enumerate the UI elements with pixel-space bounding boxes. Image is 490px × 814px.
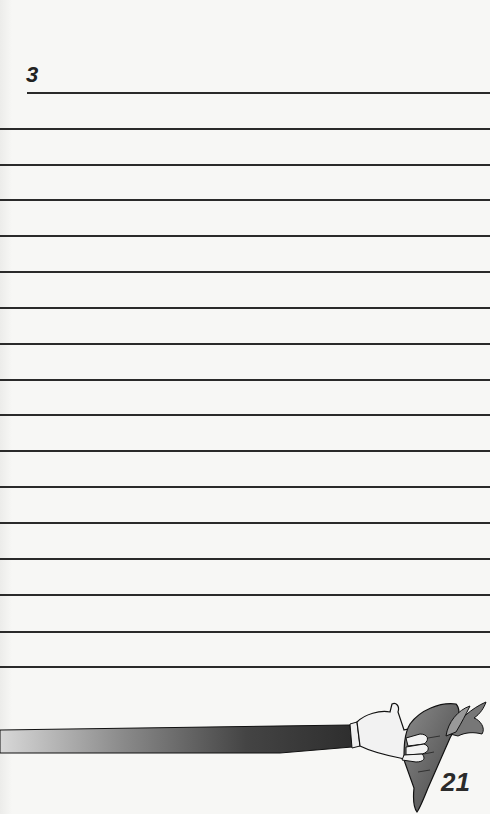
ruled-line (0, 379, 490, 381)
hand-holding-carrot-icon (0, 700, 490, 814)
ruled-line (0, 235, 490, 237)
ruled-line (0, 558, 490, 560)
ruled-line (0, 414, 490, 416)
ruled-line (0, 128, 490, 130)
ruled-line (0, 666, 490, 668)
ruled-line (0, 486, 490, 488)
ruled-line (0, 631, 490, 633)
ruled-line (0, 164, 490, 166)
ruled-line (0, 307, 490, 309)
ruled-line (0, 450, 490, 452)
ruled-line (0, 199, 490, 201)
section-number: 3 (26, 62, 38, 88)
ruled-line (0, 271, 490, 273)
page-number: 21 (441, 767, 470, 798)
notebook-page: 3 21 (0, 0, 490, 814)
ruled-line (0, 522, 490, 524)
ruled-line (27, 92, 490, 94)
ruled-line (0, 594, 490, 596)
ruled-line (0, 343, 490, 345)
